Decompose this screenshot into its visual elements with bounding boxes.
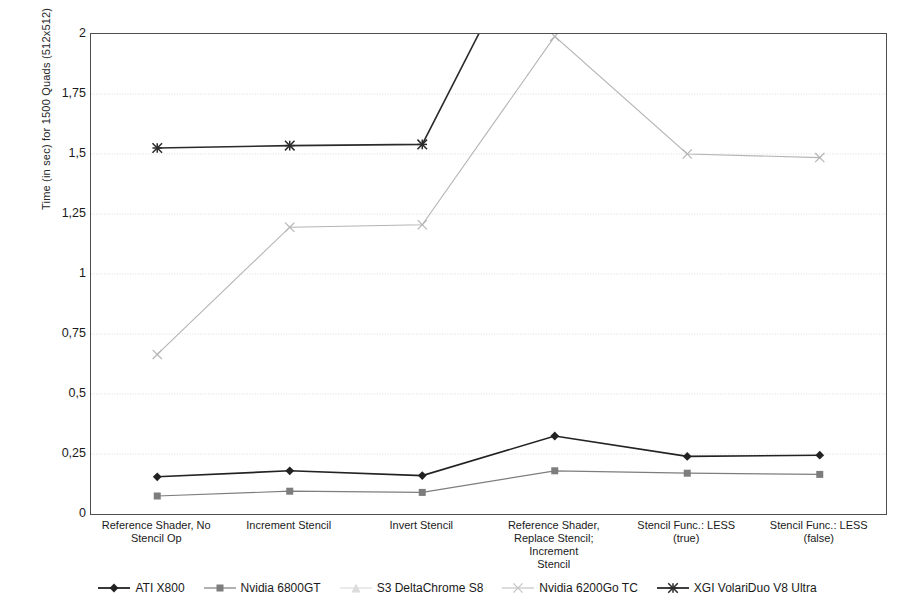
legend-marker-triangle-icon	[339, 582, 373, 594]
data-point-marker-diamond	[153, 472, 162, 481]
series-line	[157, 36, 820, 354]
data-point-marker-asterisk	[285, 141, 295, 151]
legend-marker-asterisk-icon	[656, 582, 690, 594]
x-axis-tick-label: Stencil Func.: LESS (true)	[623, 519, 750, 545]
series-line	[157, 436, 820, 477]
y-axis-tick-label: 0,5	[32, 386, 86, 400]
y-axis-tick-label: 1,5	[32, 146, 86, 160]
chart-legend: ATI X800Nvidia 6800GTS3 DeltaChrome S8Nv…	[0, 576, 914, 600]
data-point-marker-square	[816, 471, 823, 478]
legend-item[interactable]: Nvidia 6800GT	[203, 581, 321, 595]
y-axis-tick-label: 1,25	[32, 206, 86, 220]
data-point-marker-x	[550, 34, 559, 41]
y-axis-tick-label: 0,25	[32, 446, 86, 460]
y-axis-tick-label: 2	[32, 26, 86, 40]
data-point-marker-diamond	[550, 432, 559, 441]
data-point-marker-diamond	[110, 584, 119, 593]
x-axis-tick-label: Increment Stencil	[226, 519, 353, 532]
data-point-marker-square	[286, 488, 293, 495]
x-axis-tick-label: Invert Stencil	[358, 519, 485, 532]
data-point-marker-diamond	[683, 452, 692, 461]
x-axis-tick-label: Reference Shader,Replace Stencil; Increm…	[491, 519, 618, 571]
data-point-marker-square	[419, 489, 426, 496]
series-layer	[91, 34, 886, 514]
legend-item[interactable]: XGI VolariDuo V8 Ultra	[656, 581, 817, 595]
legend-label: S3 DeltaChrome S8	[377, 581, 484, 595]
data-point-marker-asterisk	[668, 583, 678, 593]
y-axis-ticks: 00,250,50,7511,251,51,752	[30, 0, 86, 611]
data-point-marker-square	[684, 470, 691, 477]
legend-item[interactable]: ATI X800	[97, 581, 184, 595]
data-point-marker-asterisk	[417, 140, 427, 150]
data-point-marker-diamond	[815, 451, 824, 460]
legend-label: ATI X800	[135, 581, 184, 595]
legend-label: Nvidia 6800GT	[241, 581, 321, 595]
legend-label: XGI VolariDuo V8 Ultra	[694, 581, 817, 595]
legend-marker-diamond-icon	[97, 582, 131, 594]
data-point-marker-square	[154, 493, 161, 500]
legend-label: Nvidia 6200Go TC	[539, 581, 638, 595]
x-axis-tick-label: Reference Shader, NoStencil Op	[93, 519, 220, 545]
data-point-marker-x	[153, 350, 162, 359]
series-line	[157, 34, 555, 148]
series-line	[157, 471, 820, 496]
data-point-marker-square	[551, 467, 558, 474]
legend-item[interactable]: S3 DeltaChrome S8	[339, 581, 484, 595]
y-axis-tick-label: 1,75	[32, 86, 86, 100]
y-axis-tick-label: 0,75	[32, 326, 86, 340]
plot-area	[90, 33, 887, 515]
x-axis-labels: Reference Shader, NoStencil OpIncrement …	[90, 519, 885, 579]
chart-container: Time (in sec) for 1500 Quads (512x512) 0…	[0, 0, 914, 611]
y-axis-tick-label: 1	[32, 266, 86, 280]
x-axis-tick-label: Stencil Func.: LESS (false)	[756, 519, 883, 545]
legend-marker-x-icon	[501, 582, 535, 594]
y-axis-tick-label: 0	[32, 506, 86, 520]
data-point-marker-square	[216, 585, 223, 592]
legend-marker-square-icon	[203, 582, 237, 594]
data-point-marker-diamond	[285, 466, 294, 475]
data-point-marker-diamond	[418, 471, 427, 480]
legend-item[interactable]: Nvidia 6200Go TC	[501, 581, 638, 595]
data-point-marker-asterisk	[152, 143, 162, 153]
